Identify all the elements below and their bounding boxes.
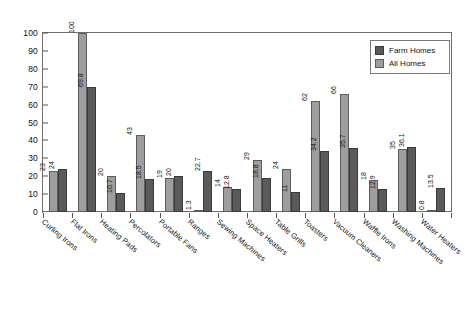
y-tick-label: 20 xyxy=(28,172,38,181)
bar-farm: 34.2 xyxy=(320,151,329,212)
bar-group: 2918.8 xyxy=(247,33,276,212)
legend-label: Farm Homes xyxy=(389,47,435,55)
legend-label: All Homes xyxy=(389,60,425,68)
legend-item[interactable]: All Homes xyxy=(375,59,445,68)
bar-group: 2324 xyxy=(43,33,72,212)
y-tick-label: 90 xyxy=(28,47,38,56)
bar-farm: 11 xyxy=(291,192,300,212)
y-tick-label: 40 xyxy=(28,136,38,145)
y-tick-label: 0 xyxy=(33,208,38,217)
bar-value-label: 35.7 xyxy=(346,141,353,155)
x-tick-label: Ranges xyxy=(186,218,211,241)
bar-farm: 18.8 xyxy=(262,178,271,212)
y-tick-label: 30 xyxy=(28,154,38,163)
chart-container: 0102030405060708090100 232410069.82010.7… xyxy=(0,0,465,315)
bar-value-label: 12.8 xyxy=(230,182,237,196)
x-tick-label: Washing Machines xyxy=(390,218,445,266)
bar-farm: 35.7 xyxy=(349,148,358,212)
bar-group: 6635.7 xyxy=(334,33,363,212)
bar-group: 2010.7 xyxy=(101,33,130,212)
bar-value-label: 18.8 xyxy=(259,172,266,186)
bar-value-label: 18.5 xyxy=(142,172,149,186)
bar-value-label: 62 xyxy=(308,97,315,105)
bar-value-label: 11 xyxy=(288,189,295,196)
bar-value-label: 24 xyxy=(55,165,62,173)
bar-value-label: 100 xyxy=(75,27,82,39)
bar-farm: 22.7 xyxy=(203,171,212,212)
bar-farm: 69.8 xyxy=(87,87,96,212)
bar-value-label: 22.7 xyxy=(201,165,208,179)
bar-farm: 10.7 xyxy=(116,193,125,212)
bar-value-label: 69.8 xyxy=(84,80,91,94)
bar-value-label: 29 xyxy=(250,156,257,164)
bar-group: 6234.2 xyxy=(305,33,334,212)
bar-farm: 12.9 xyxy=(378,189,387,212)
bar-value-label: 12.9 xyxy=(376,182,383,196)
bar-group: 4318.5 xyxy=(130,33,159,212)
bar-value-label: 34.2 xyxy=(317,144,324,158)
bar-value-label: 24 xyxy=(279,165,286,173)
bar-all: 0.8 xyxy=(427,210,436,212)
bar-group: 2411 xyxy=(276,33,305,212)
bar-farm: 24 xyxy=(58,169,67,212)
y-tick-label: 80 xyxy=(28,65,38,74)
x-tick-label: Toasters xyxy=(302,218,329,243)
bar-value-label: 10.7 xyxy=(113,186,120,200)
bar-group: 10069.8 xyxy=(72,33,101,212)
bar-farm: 20 xyxy=(174,176,183,212)
bar-all: 23 xyxy=(49,171,58,212)
x-axis-labels: Curling IronsFlat IronsHeating PadsPerco… xyxy=(43,218,451,313)
bar-farm: 13.5 xyxy=(436,188,445,212)
y-tick-label: 60 xyxy=(28,100,38,109)
bar-value-label: 66 xyxy=(337,90,344,98)
bar-farm: 18.5 xyxy=(145,179,154,212)
bar-all: 19 xyxy=(165,178,174,212)
bar-all: 100 xyxy=(78,33,87,212)
x-tick-mark xyxy=(451,213,452,218)
y-tick-label: 10 xyxy=(28,190,38,199)
bar-value-label: 20 xyxy=(172,172,179,180)
bar-all: 35 xyxy=(398,149,407,212)
bar-value-label: 36.1 xyxy=(405,141,412,155)
legend-swatch-farm xyxy=(375,46,384,55)
chart-legend: Farm HomesAll Homes xyxy=(370,40,450,74)
legend-item[interactable]: Farm Homes xyxy=(375,46,445,55)
bar-group: 1412.8 xyxy=(218,33,247,212)
y-tick-label: 100 xyxy=(23,29,38,38)
bar-value-label: 13.5 xyxy=(434,181,441,195)
y-tick-label: 70 xyxy=(28,82,38,91)
bar-all: 1.3 xyxy=(194,210,203,212)
bar-farm: 12.8 xyxy=(232,189,241,212)
bar-value-label: 43 xyxy=(133,131,140,139)
bar-group: 1920 xyxy=(160,33,189,212)
y-tick-label: 50 xyxy=(28,118,38,127)
legend-swatch-all xyxy=(375,59,384,68)
bar-farm: 36.1 xyxy=(407,147,416,212)
